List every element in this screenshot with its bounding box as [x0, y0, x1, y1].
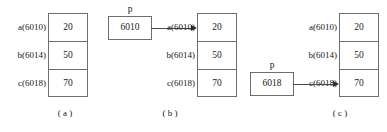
- panel-a-cell-0: 20: [49, 14, 87, 42]
- panel-c-pointer-arrow-line: [293, 84, 333, 85]
- panel-b-caption: ( b ): [140, 109, 200, 118]
- panel-a-address-column: a(6010) b(6014) c(6018): [0, 13, 46, 97]
- panel-a-cell-1: 50: [49, 42, 87, 70]
- panel-b-memory-table: 20 50 70: [197, 13, 237, 97]
- panel-a-address-label-0: a(6010): [0, 13, 46, 41]
- panel-b-cell-0: 20: [198, 14, 236, 42]
- panel-a-cell-2: 70: [49, 70, 87, 98]
- panel-b-cell-2: 70: [198, 70, 236, 98]
- panel-a-address-label-2: c(6018): [0, 69, 46, 97]
- panel-c-address-label-0: a(6010): [291, 13, 337, 41]
- panel-c-cell-2: 70: [340, 70, 378, 98]
- panel-b-address-column: a(6010) b(6014) c(6018): [149, 13, 195, 97]
- panel-b-address-label-0: a(6010): [149, 13, 195, 41]
- panel-a-caption: ( a ): [35, 109, 95, 118]
- pointer-diagram-figure: a(6010) b(6014) c(6018) 20 50 70 ( a ) p…: [0, 0, 387, 132]
- panel-b-cell-1: 50: [198, 42, 236, 70]
- panel-c-cell-0: 20: [340, 14, 378, 42]
- panel-b-address-label-1: b(6014): [149, 41, 195, 69]
- panel-c-pointer-box: 6018: [250, 72, 294, 96]
- panel-b-pointer-name: p: [120, 5, 140, 15]
- panel-c-pointer-name: p: [262, 61, 282, 71]
- panel-b-pointer-box: 6010: [108, 16, 152, 40]
- panel-c-address-label-1: b(6014): [291, 41, 337, 69]
- panel-a-memory-table: 20 50 70: [48, 13, 88, 97]
- panel-c-caption: ( c ): [310, 109, 370, 118]
- panel-c-memory-table: 20 50 70: [339, 13, 379, 97]
- panel-c-address-label-2: c(6018): [291, 69, 337, 97]
- panel-c-cell-1: 50: [340, 42, 378, 70]
- panel-b-address-label-2: c(6018): [149, 69, 195, 97]
- panel-a-address-label-1: b(6014): [0, 41, 46, 69]
